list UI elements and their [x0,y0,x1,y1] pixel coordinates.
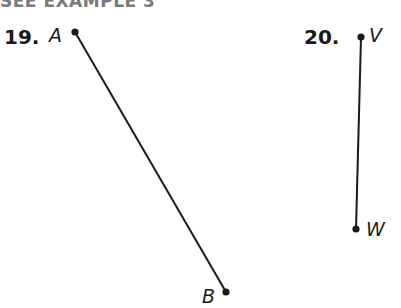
point-b-dot [222,288,229,295]
point-w-dot [352,225,359,232]
point-v-dot [357,33,364,40]
segments-figure [0,0,401,308]
segment-ab [75,32,226,292]
segment-vw [356,37,361,229]
point-a-dot [71,28,78,35]
